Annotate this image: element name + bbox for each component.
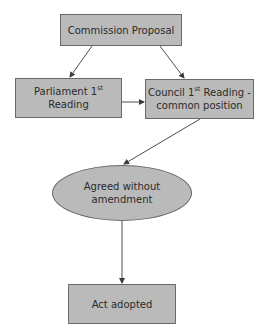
node-act-adopted-label: Act adopted	[92, 298, 153, 311]
edge-commission-to-council	[160, 46, 184, 78]
node-council-first-reading: Council 1st Reading - common position	[145, 79, 254, 119]
node-agreed-without-amendment-label: Agreed without amendment	[53, 180, 191, 206]
node-act-adopted: Act adopted	[68, 284, 176, 324]
edge-council-to-agreed	[124, 119, 200, 164]
node-commission-proposal: Commission Proposal	[60, 14, 182, 46]
edge-commission-to-parliament	[70, 46, 92, 77]
node-council-first-reading-label-line2: common position	[156, 99, 242, 112]
flowchart-canvas: Commission Proposal Parliament 1st Readi…	[0, 0, 266, 336]
node-commission-proposal-label: Commission Proposal	[68, 24, 175, 37]
node-parliament-first-reading-label: Parliament 1st Reading	[16, 85, 121, 111]
node-parliament-first-reading: Parliament 1st Reading	[15, 78, 122, 118]
node-council-first-reading-label-line1: Council 1st Reading -	[148, 86, 251, 99]
node-agreed-without-amendment: Agreed without amendment	[52, 165, 192, 221]
